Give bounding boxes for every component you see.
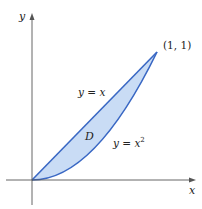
x-axis-arrow-icon: [189, 178, 196, 183]
curve-parabola-exponent: 2: [140, 136, 144, 144]
region-label: D: [84, 130, 94, 143]
point-label: (1, 1): [163, 39, 191, 51]
y-axis-arrow-icon: [30, 13, 35, 20]
x-axis-label: x: [189, 184, 196, 197]
curve-parabola-label: y = x2: [112, 136, 145, 149]
curve-line-label: y = x: [77, 86, 105, 98]
curve-line: [32, 52, 157, 180]
y-axis-label: y: [18, 10, 26, 23]
diagram-canvas: x y (1, 1) y = x D y = x2: [0, 0, 202, 209]
curve-parabola-label-base: y = x: [112, 137, 140, 149]
